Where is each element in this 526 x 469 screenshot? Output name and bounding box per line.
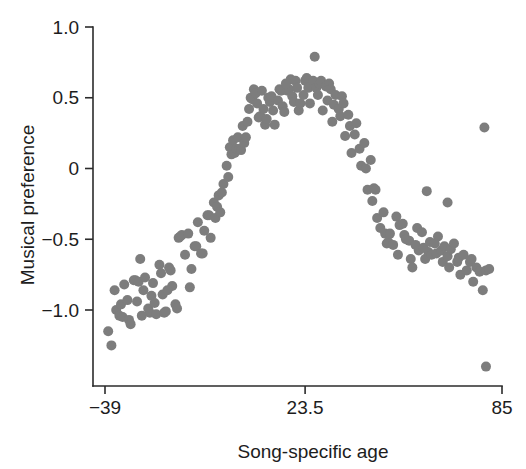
data-point [180, 250, 190, 260]
x-tick-label: −39 [89, 397, 121, 418]
data-point [126, 319, 136, 329]
data-point [137, 311, 147, 321]
data-point [281, 79, 291, 89]
data-point [443, 197, 453, 207]
scatter-plot-figure: 1.00.50−0.5−1.0 −3923.585 Song-specific … [0, 0, 526, 469]
data-point [270, 120, 280, 130]
data-point [366, 155, 376, 165]
data-point [327, 117, 337, 127]
data-point [359, 138, 369, 148]
data-point [223, 172, 233, 182]
data-point [186, 264, 196, 274]
axes-layer: 1.00.50−0.5−1.0 −3923.585 [41, 17, 512, 419]
data-point [122, 295, 132, 305]
data-point [268, 105, 278, 115]
data-point [193, 217, 203, 227]
y-tick-label: −1.0 [41, 300, 79, 321]
data-point [468, 277, 478, 287]
data-point [206, 233, 216, 243]
data-point [318, 105, 328, 115]
data-point [484, 264, 494, 274]
data-point [222, 161, 232, 171]
data-point [467, 254, 477, 264]
plot-canvas: 1.00.50−0.5−1.0 −3923.585 Song-specific … [0, 0, 526, 469]
data-point [183, 229, 193, 239]
y-tick-label: −0.5 [41, 229, 79, 250]
data-point [241, 132, 251, 142]
data-point [172, 304, 182, 314]
data-point [479, 122, 489, 132]
data-point [367, 196, 377, 206]
data-point [244, 104, 254, 114]
data-point [393, 250, 403, 260]
data-point [350, 130, 360, 140]
data-point [305, 98, 315, 108]
data-point [444, 263, 454, 273]
y-axis-ticks: 1.00.50−0.5−1.0 [41, 17, 93, 321]
data-point [166, 265, 176, 275]
data-point [119, 280, 129, 290]
data-point [406, 254, 416, 264]
data-point [351, 118, 361, 128]
x-axis-title: Song-specific age [237, 441, 388, 462]
data-point [407, 263, 417, 273]
data-point [217, 188, 227, 198]
data-point [339, 98, 349, 108]
y-tick-label: 0 [68, 158, 79, 179]
data-point [398, 219, 408, 229]
data-point [279, 107, 289, 117]
y-tick-label: 1.0 [53, 17, 79, 38]
data-point [313, 90, 323, 100]
data-point [110, 285, 120, 295]
y-axis-title: Musical preference [17, 125, 38, 286]
data-point [385, 229, 395, 239]
data-point [132, 297, 142, 307]
data-point [371, 185, 381, 195]
data-point [242, 117, 252, 127]
data-point [135, 254, 145, 264]
x-axis-ticks: −3923.585 [89, 386, 513, 418]
data-point [154, 260, 164, 270]
data-points-layer [103, 52, 494, 372]
x-tick-label: 85 [491, 397, 512, 418]
data-point [161, 306, 171, 316]
data-point [185, 282, 195, 292]
x-tick-label: 23.5 [287, 397, 324, 418]
y-tick-label: 0.5 [53, 87, 79, 108]
data-point [449, 239, 459, 249]
data-point [310, 52, 320, 62]
data-point [388, 240, 398, 250]
data-point [343, 110, 353, 120]
data-point [379, 207, 389, 217]
data-point [433, 231, 443, 241]
data-point [340, 131, 350, 141]
data-point [150, 298, 160, 308]
data-point [361, 164, 371, 174]
data-point [481, 362, 491, 372]
data-point [106, 340, 116, 350]
data-point [417, 227, 427, 237]
data-point [198, 248, 208, 258]
data-point [215, 207, 225, 217]
data-point [162, 285, 172, 295]
data-point [422, 186, 432, 196]
data-point [478, 285, 488, 295]
data-point [148, 278, 158, 288]
data-point [103, 326, 113, 336]
